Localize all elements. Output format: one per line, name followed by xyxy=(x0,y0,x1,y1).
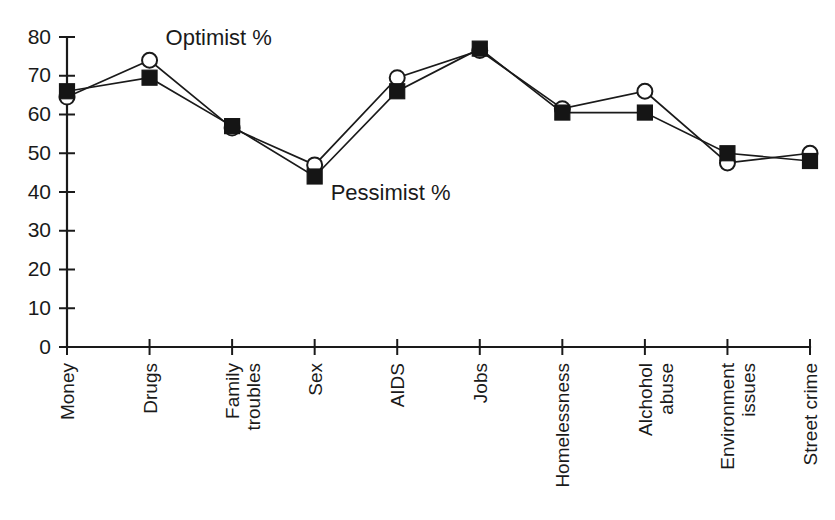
x-axis-tick-label: Familytroubles xyxy=(222,363,264,431)
x-axis-tick-label: Jobs xyxy=(470,363,491,403)
x-axis-tick-label: Drugs xyxy=(140,363,161,414)
x-axis-tick-label-line: issues xyxy=(738,363,759,417)
y-axis: 01020304050607080 xyxy=(28,25,75,358)
x-axis-tick-label: Street crime xyxy=(800,363,821,465)
y-axis-tick-label: 0 xyxy=(39,335,51,358)
x-axis-tick-label-line: Money xyxy=(57,363,78,421)
x-axis-tick-label-line: Alchohol xyxy=(635,363,656,436)
x-axis-tick-label: Alchoholabuse xyxy=(635,363,677,436)
data-point-marker-square xyxy=(390,84,405,99)
x-axis-tick-label-line: troubles xyxy=(243,363,264,431)
data-point-marker-square xyxy=(720,146,735,161)
y-axis-tick-label: 60 xyxy=(28,102,51,125)
x-axis-tick-label: Environmentissues xyxy=(717,362,759,469)
x-axis-tick-label: AIDS xyxy=(387,363,408,407)
y-axis-tick-label: 10 xyxy=(28,296,51,319)
y-axis-tick-label: 80 xyxy=(28,25,51,48)
data-point-marker-circle xyxy=(390,70,405,85)
x-axis-tick-label-line: Street crime xyxy=(800,363,821,465)
y-axis-tick-label: 40 xyxy=(28,180,51,203)
data-point-marker-circle xyxy=(637,84,652,99)
y-axis-tick-label: 70 xyxy=(28,63,51,86)
series-label-optimist: Optimist % xyxy=(166,25,272,50)
x-axis-tick-label-line: abuse xyxy=(656,363,677,415)
x-axis-tick-label-line: Family xyxy=(222,363,243,419)
x-axis: MoneyDrugsFamilytroublesSexAIDSJobsHomel… xyxy=(57,339,821,488)
data-point-marker-square xyxy=(307,169,322,184)
data-series-group xyxy=(60,41,818,184)
data-point-marker-square xyxy=(142,70,157,85)
y-axis-tick-label: 20 xyxy=(28,257,51,280)
x-axis-tick-label-line: Homelessness xyxy=(552,363,573,488)
x-axis-tick-label-line: Sex xyxy=(305,363,326,396)
data-point-marker-square xyxy=(472,41,487,56)
data-point-marker-square xyxy=(60,84,75,99)
x-axis-tick-label-line: Drugs xyxy=(140,363,161,414)
chart-container: 01020304050607080 MoneyDrugsFamilytroubl… xyxy=(0,0,835,520)
x-axis-tick-label: Homelessness xyxy=(552,363,573,488)
data-point-marker-square xyxy=(803,154,818,169)
series-label-pessimist: Pessimist % xyxy=(331,180,451,205)
series-line-optimist xyxy=(67,51,810,165)
x-axis-tick-label: Money xyxy=(57,363,78,421)
x-axis-tick-label-line: Jobs xyxy=(470,363,491,403)
y-axis-tick-label: 50 xyxy=(28,141,51,164)
line-chart: 01020304050607080 MoneyDrugsFamilytroubl… xyxy=(0,0,835,520)
y-axis-tick-label: 30 xyxy=(28,218,51,241)
data-point-marker-square xyxy=(637,105,652,120)
x-axis-tick-label: Sex xyxy=(305,363,326,396)
series-line-pessimist xyxy=(67,49,810,177)
data-point-marker-square xyxy=(225,119,240,134)
data-point-marker-square xyxy=(555,105,570,120)
x-axis-tick-label-line: Environment xyxy=(717,362,738,469)
x-axis-tick-label-line: AIDS xyxy=(387,363,408,407)
data-point-marker-circle xyxy=(142,53,157,68)
